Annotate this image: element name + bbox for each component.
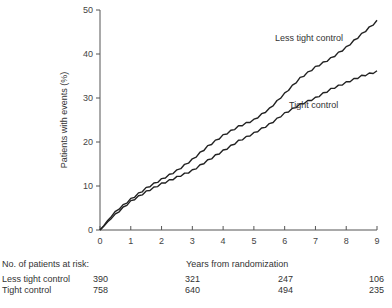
- x-tick-label: 9: [374, 236, 379, 246]
- curve-less-tight-control: [100, 20, 377, 230]
- risk-row-less-tight-name: Less tight control: [2, 274, 70, 284]
- x-tick-label: 2: [159, 236, 164, 246]
- x-tick-label: 5: [251, 236, 256, 246]
- risk-row-tight-name: Tight control: [2, 285, 51, 295]
- y-tick-label: 40: [83, 49, 93, 59]
- x-tick-label: 0: [97, 236, 102, 246]
- y-tick-label: 30: [83, 93, 93, 103]
- curves: [100, 20, 377, 230]
- x-tick-label: 7: [313, 236, 318, 246]
- x-axis-title: Years from randomization: [186, 259, 288, 269]
- x-tick-label: 4: [221, 236, 226, 246]
- risk-row-less-tight-value: 321: [185, 274, 200, 284]
- risk-row-tight-value: 494: [278, 285, 293, 295]
- risk-row-tight-value: 758: [93, 285, 108, 295]
- risk-table-title: No. of patients at risk:: [2, 259, 89, 269]
- x-tick-label: 1: [128, 236, 133, 246]
- y-tick-label: 0: [88, 225, 93, 235]
- curve-tight-control: [100, 71, 377, 230]
- series-label-less-tight: Less tight control: [275, 33, 343, 43]
- risk-row-less-tight-value: 247: [278, 274, 293, 284]
- risk-row-less-tight-value: 390: [93, 274, 108, 284]
- risk-row-less-tight-value: 106: [369, 274, 384, 284]
- y-tick-label: 20: [83, 137, 93, 147]
- y-tick-label: 50: [83, 5, 93, 15]
- risk-row-tight-value: 235: [369, 285, 384, 295]
- risk-row-tight-value: 640: [185, 285, 200, 295]
- x-tick-label: 8: [344, 236, 349, 246]
- x-tick-label: 6: [282, 236, 287, 246]
- y-axis-title: Patients with events (%): [59, 72, 69, 169]
- x-tick-label: 3: [190, 236, 195, 246]
- series-label-tight: Tight control: [289, 100, 338, 110]
- y-tick-label: 10: [83, 181, 93, 191]
